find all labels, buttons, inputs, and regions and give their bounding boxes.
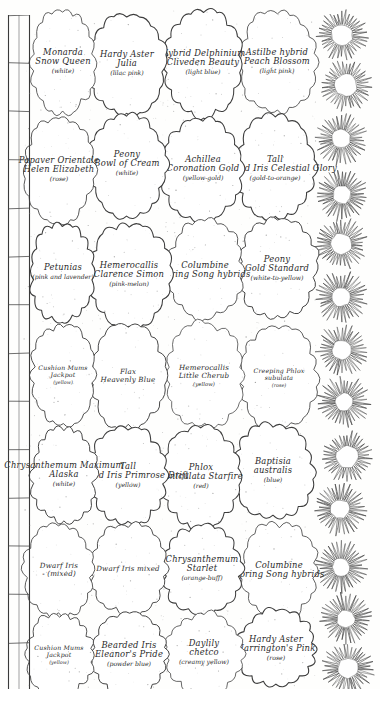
bed-outline <box>163 7 244 119</box>
sheet-bottom-margin <box>0 689 380 703</box>
bed-outline <box>24 611 95 697</box>
wall-svg <box>6 15 32 691</box>
planting-bed[interactable]: ChrysanthemumStarlet(orange-buff) <box>160 522 243 614</box>
bed-outline <box>29 220 97 324</box>
plan-sheet: Astilbe hybridPeach Blossom(light pink)H… <box>0 0 380 703</box>
bed-outline <box>166 218 244 321</box>
bed-outline <box>23 113 95 226</box>
bed-outline <box>31 423 97 525</box>
bed-outline <box>160 522 243 614</box>
daisy-flower <box>312 267 370 325</box>
planting-bed[interactable]: PeonyBowl of Cream(white) <box>85 111 168 217</box>
garden-plan-canvas: Astilbe hybridPeach Blossom(light pink)H… <box>4 7 376 697</box>
planting-bed[interactable]: Petunias(pink and lavender) <box>29 220 97 324</box>
daisy-flower <box>317 55 375 113</box>
planting-bed[interactable]: AchilleaCoronation Gold(yellow-gold) <box>161 114 243 225</box>
bed-outline <box>163 611 245 694</box>
daisy-flower <box>312 109 370 167</box>
bed-outline <box>238 322 320 432</box>
bed-outline <box>238 8 317 117</box>
bed-outline <box>85 111 168 217</box>
planting-bed[interactable]: Astilbe hybridPeach Blossom(light pink) <box>238 8 317 117</box>
planting-bed[interactable]: Creeping Phloxsubulata(rose) <box>238 322 320 432</box>
planting-bed[interactable]: Dwarf Iris- (mixed) <box>22 520 95 618</box>
daisy-flower <box>318 427 376 485</box>
daisy-flower <box>312 215 370 273</box>
bed-outline <box>161 114 243 225</box>
bed-outline <box>30 322 97 428</box>
daisy-flower <box>315 373 373 431</box>
planting-bed[interactable]: Phloxpaniculata Starfire(red) <box>158 423 243 530</box>
bed-outline <box>239 520 318 619</box>
planting-bed[interactable]: HemerocallisLittle Cherub(yellow) <box>163 321 245 430</box>
planting-bed[interactable]: Dwarf Iris mixed <box>87 522 169 616</box>
daisy-flower <box>319 638 377 696</box>
bed-outline <box>158 423 243 530</box>
bed-outline <box>87 522 168 616</box>
planting-bed[interactable]: FlaxHeavenly Blue <box>89 320 168 432</box>
planting-bed[interactable]: Hybrid DelphiniumCliveden Beauty(light b… <box>163 7 244 119</box>
bed-outline <box>89 320 168 432</box>
planting-bed[interactable]: Hardy AsterJulia(lilac pink) <box>86 10 169 118</box>
planting-bed[interactable]: HemerocallisClarence Simon(pink-melon) <box>86 220 172 329</box>
planting-bed[interactable]: Cushion MumsJackpot(yellow) <box>24 611 95 697</box>
bed-outline <box>163 321 245 430</box>
planting-bed[interactable]: TallBearded Iris Celestial Glory(gold-to… <box>234 114 317 223</box>
planting-bed[interactable]: Cushion MumsJackpot(yellow) <box>30 322 97 428</box>
bed-outline <box>230 421 316 521</box>
daisy-flower <box>313 320 371 378</box>
planting-bed[interactable]: Hardy AsterHarrington's Pink(rose) <box>234 609 318 689</box>
bed-outline <box>85 10 168 118</box>
bed-outline <box>30 7 97 116</box>
bed-outline <box>86 220 172 329</box>
daisy-flower-edging-row <box>312 7 376 697</box>
planting-bed[interactable]: ColumbineSpring Song hybrids <box>166 218 245 321</box>
planting-bed[interactable]: PeonyGold Standard(white-to-yellow) <box>236 217 319 320</box>
daisy-flower <box>311 479 369 537</box>
planting-bed[interactable]: MonardaSnow Queen(white) <box>30 7 97 116</box>
bed-outline <box>22 520 95 618</box>
brick-wall-edge <box>6 15 32 691</box>
planting-beds-layer: Astilbe hybridPeach Blossom(light pink)H… <box>28 7 318 697</box>
bed-outline <box>90 611 169 698</box>
planting-bed[interactable]: Baptisiaaustralis(blue) <box>230 421 316 521</box>
planting-bed[interactable]: Bearded IrisEleanor's Pride(powder blue) <box>90 611 169 698</box>
planting-bed[interactable]: Papaver OrientaleHelen Elizabeth(rose) <box>23 113 95 226</box>
planting-bed[interactable]: Chrysanthemum MaximumAlaska(white) <box>31 423 97 525</box>
bed-outline <box>234 114 317 223</box>
daisy-flower <box>312 537 370 595</box>
bed-outline <box>236 217 319 320</box>
planting-bed[interactable]: ColumbineSpring Song hybrids <box>239 520 318 619</box>
planting-bed[interactable]: Daylilychetco(creamy yellow) <box>163 611 245 695</box>
bed-outline <box>234 609 318 689</box>
